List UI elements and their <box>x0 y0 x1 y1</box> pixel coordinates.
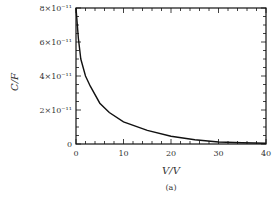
x-tick-label: 30 <box>213 149 223 158</box>
ticks <box>76 8 266 144</box>
y-tick-label: 0 <box>67 140 72 149</box>
y-tick-label: 2×10⁻¹¹ <box>39 106 72 115</box>
x-tick-label: 10 <box>118 149 128 158</box>
x-tick-label: 40 <box>261 149 271 158</box>
y-tick-label: 8×10⁻¹¹ <box>39 4 72 13</box>
y-tick-label: 4×10⁻¹¹ <box>39 72 72 81</box>
y-axis-label: C/F <box>9 72 20 91</box>
chart: 02×10⁻¹¹4×10⁻¹¹6×10⁻¹¹8×10⁻¹¹ 010203040 … <box>0 0 276 204</box>
y-tick-label: 6×10⁻¹¹ <box>39 38 72 47</box>
x-axis-label: V/V <box>162 165 182 176</box>
x-tick-label: 20 <box>166 149 176 158</box>
plot-frame <box>76 8 266 144</box>
data-line <box>76 8 266 143</box>
x-tick-labels: 010203040 <box>73 149 271 158</box>
x-tick-label: 0 <box>73 149 78 158</box>
caption: (a) <box>165 183 176 192</box>
y-tick-labels: 02×10⁻¹¹4×10⁻¹¹6×10⁻¹¹8×10⁻¹¹ <box>39 4 72 149</box>
